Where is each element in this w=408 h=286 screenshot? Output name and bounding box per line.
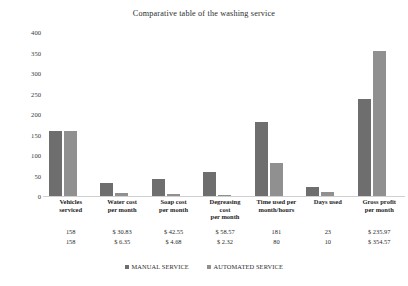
chart-legend: MANUAL SERVICEAUTOMATED SERVICE [0, 263, 408, 270]
bar-group [148, 32, 199, 196]
table-cell-category: Degreasingcostper month [199, 198, 250, 221]
y-axis-tick-label: 250 [31, 90, 41, 97]
table-cell-value: $ 30.83 [96, 228, 147, 235]
y-axis-tick-label: 150 [31, 131, 41, 138]
table-cell-category: Days used [302, 198, 353, 206]
bar-automated [64, 131, 77, 196]
bar-automated [115, 193, 128, 196]
table-cell-value: 10 [302, 238, 353, 245]
legend-label: MANUAL SERVICE [132, 263, 189, 270]
bar-automated [167, 194, 180, 196]
table-cell-value: $ 235.97 [354, 228, 405, 235]
y-axis-tick-label: 50 [34, 172, 41, 179]
bar-group [251, 32, 302, 196]
table-row-manual-service: 158$ 30.83$ 42.55$ 58.5718123$ 235.97 [45, 227, 405, 237]
bar-manual [49, 131, 62, 196]
bar-manual [100, 183, 113, 196]
table-cell-value: $ 6.35 [96, 238, 147, 245]
table-cell-value: 158 [45, 228, 96, 235]
chart-title: Comparative table of the washing service [0, 9, 408, 18]
legend-item-manual[interactable]: MANUAL SERVICE [125, 263, 189, 270]
bar-group [302, 32, 353, 196]
table-cell-value: $ 2.32 [199, 238, 250, 245]
table-cell-category: Vehiclesserviced [45, 198, 96, 213]
y-axis: 050100150200250300350400 [0, 32, 41, 196]
legend-swatch-icon [207, 265, 211, 269]
table-cell-category: Soap costper month [148, 198, 199, 213]
y-axis-tick-label: 350 [31, 49, 41, 56]
table-cell-value: $ 4.68 [148, 238, 199, 245]
bar-group [45, 32, 96, 196]
table-row-automated-service: 158$ 6.35$ 4.68$ 2.328010$ 354.57 [45, 237, 405, 247]
table-row-category-headers: VehiclesservicedWater costper monthSoap … [45, 197, 405, 227]
y-axis-tick-label: 0 [38, 193, 41, 200]
bar-manual [358, 99, 371, 196]
table-cell-value: 80 [251, 238, 302, 245]
table-cell-value: 158 [45, 238, 96, 245]
bar-manual [203, 172, 216, 196]
legend-swatch-icon [125, 265, 129, 269]
bar-group [96, 32, 147, 196]
table-cell-value: 23 [302, 228, 353, 235]
bar-group [199, 32, 250, 196]
legend-item-automated[interactable]: AUTOMATED SERVICE [207, 263, 283, 270]
chart-container: Comparative table of the washing service… [0, 0, 408, 286]
y-axis-tick-label: 400 [31, 29, 41, 36]
legend-label: AUTOMATED SERVICE [213, 263, 283, 270]
bar-automated [270, 163, 283, 196]
y-axis-tick-label: 100 [31, 152, 41, 159]
table-cell-category: Water costper month [96, 198, 147, 213]
table-cell-value: $ 58.57 [199, 228, 250, 235]
bar-automated [373, 51, 386, 196]
y-axis-tick-label: 300 [31, 70, 41, 77]
table-cell-value: $ 354.57 [354, 238, 405, 245]
data-table: VehiclesservicedWater costper monthSoap … [45, 197, 405, 247]
bar-manual [255, 122, 268, 196]
table-cell-category: Time used permonth/hours [251, 198, 302, 213]
y-axis-tick-label: 200 [31, 111, 41, 118]
table-cell-value: $ 42.55 [148, 228, 199, 235]
bar-group [354, 32, 405, 196]
table-cell-category: Gross profitper month [354, 198, 405, 213]
bar-automated [218, 195, 231, 196]
bar-manual [306, 187, 319, 196]
bar-automated [321, 192, 334, 196]
bar-manual [152, 179, 165, 196]
plot-area [45, 32, 405, 196]
table-cell-value: 181 [251, 228, 302, 235]
